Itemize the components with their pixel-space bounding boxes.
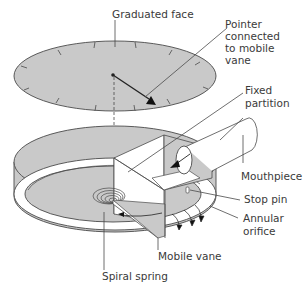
label-stop-pin: Stop pin	[244, 193, 287, 205]
label-pointer-1: Pointer	[225, 18, 263, 30]
label-pointer-4: vane	[225, 54, 251, 66]
label-graduated-face: Graduated face	[112, 8, 194, 20]
label-pointer-3: to mobile	[225, 42, 275, 54]
label-fixed-partition-2: partition	[245, 97, 290, 109]
spirometer-diagram: Graduated face Pointer connected to mobi…	[0, 0, 304, 291]
label-fixed-partition-1: Fixed	[245, 84, 272, 96]
label-pointer-2: connected	[225, 30, 280, 42]
diagram-root: Graduated face Pointer connected to mobi…	[0, 0, 304, 291]
label-mobile-vane: Mobile vane	[158, 250, 222, 262]
label-annular-orifice-2: orifice	[243, 225, 276, 237]
label-spiral-spring: Spiral spring	[102, 270, 168, 282]
label-annular-orifice-1: Annular	[243, 212, 284, 224]
stop-pin	[186, 187, 189, 193]
graduated-face	[14, 41, 216, 111]
label-mouthpiece: Mouthpiece	[241, 170, 302, 182]
mouthpiece	[170, 118, 257, 174]
